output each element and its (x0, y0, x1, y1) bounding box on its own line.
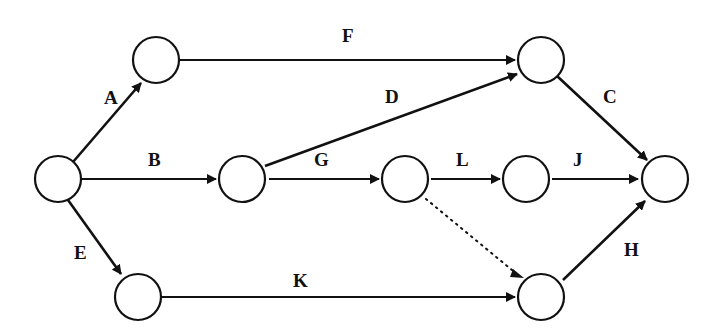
label-f: F (342, 25, 354, 46)
label-j: J (573, 149, 583, 170)
label-c: C (603, 86, 617, 107)
label-a: A (104, 87, 118, 108)
label-b: B (148, 149, 161, 170)
node-start (35, 156, 81, 202)
node-bottom-right (518, 274, 564, 320)
label-k: K (293, 270, 308, 291)
label-d: D (385, 86, 399, 107)
label-h: H (624, 239, 639, 260)
node-b-end (219, 156, 265, 202)
edge-dummy (426, 199, 518, 275)
edge-c (557, 76, 647, 160)
node-g-end (382, 156, 428, 202)
label-e: E (74, 242, 87, 263)
label-l: L (456, 149, 469, 170)
node-top-right (518, 37, 564, 83)
node-finish (642, 156, 688, 202)
edges (68, 60, 647, 297)
network-diagram: A B E F D G L J C K H (0, 0, 716, 332)
node-bottom-left (115, 274, 161, 320)
node-top-left (133, 37, 179, 83)
label-g: G (314, 149, 329, 170)
node-l-end (503, 156, 549, 202)
